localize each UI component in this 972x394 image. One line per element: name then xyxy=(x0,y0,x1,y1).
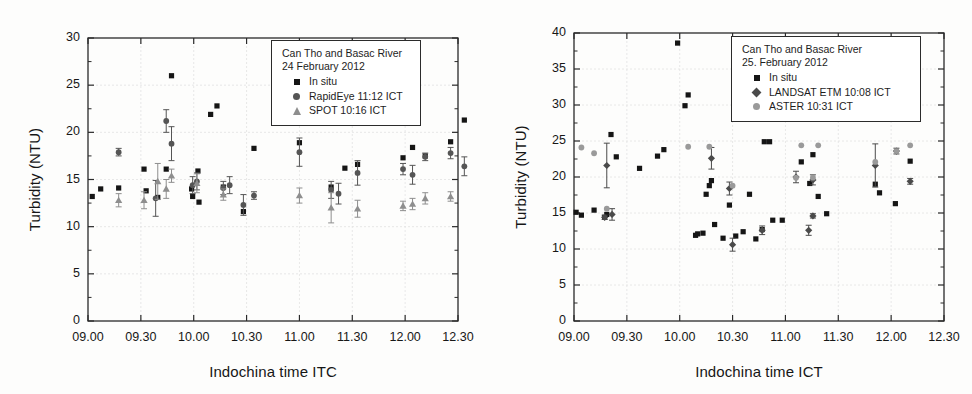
y-tick-label: 40 xyxy=(532,25,566,39)
x-tick-label: 11.30 xyxy=(324,330,380,344)
y-tick-label: 0 xyxy=(532,313,566,327)
x-tick-label: 10.30 xyxy=(219,330,275,344)
y-tick-label: 25 xyxy=(46,77,80,91)
legend-entry-in-situ: In situ xyxy=(282,75,411,89)
x-tick-label: 12.30 xyxy=(430,330,486,344)
legend-entry-rapideye: RapidEye 11:12 ICT xyxy=(282,90,411,104)
legend-label: ASTER 10:31 ICT xyxy=(769,100,853,114)
legend-title-line1: Can Tho and Basac River xyxy=(742,43,911,56)
y-tick-label: 25 xyxy=(532,133,566,147)
y-tick-label: 15 xyxy=(532,205,566,219)
x-axis-title-right: Indochina time ICT xyxy=(574,363,944,380)
legend-label: In situ xyxy=(309,75,337,89)
x-tick-label: 09.00 xyxy=(60,330,116,344)
circle-marker-icon xyxy=(751,103,762,110)
square-marker-icon xyxy=(751,75,762,81)
series-diamond xyxy=(601,143,914,251)
legend-label: In situ xyxy=(769,71,797,85)
x-tick-label: 09.30 xyxy=(113,330,169,344)
legend-entry-landsat: LANDSAT ETM 10:08 ICT xyxy=(742,86,911,100)
legend-entry-in-situ: In situ xyxy=(742,71,911,85)
y-tick-label: 20 xyxy=(46,124,80,138)
legend-entry-aster: ASTER 10:31 ICT xyxy=(742,100,911,114)
chart-panel-right: Turbidity (NTU) Indochina time ICT Can T… xyxy=(486,0,972,394)
square-marker-icon xyxy=(291,79,302,85)
x-tick-label: 10.00 xyxy=(652,330,708,344)
figure-turbidity-timeseries: Turbidity (NTU) Indochina time ITC Can T… xyxy=(0,0,972,394)
x-tick-label: 12.30 xyxy=(916,330,972,344)
legend-label: RapidEye 11:12 ICT xyxy=(309,90,403,104)
x-tick-label: 11.00 xyxy=(271,330,327,344)
chart-panel-left: Turbidity (NTU) Indochina time ITC Can T… xyxy=(0,0,486,394)
x-tick-label: 09.00 xyxy=(546,330,602,344)
y-axis-title-left: Turbidity (NTU) xyxy=(26,38,43,321)
y-tick-label: 0 xyxy=(46,313,80,327)
y-tick-label: 5 xyxy=(46,266,80,280)
triangle-marker-icon xyxy=(291,107,302,115)
circle-marker-icon xyxy=(291,93,302,100)
y-tick-label: 15 xyxy=(46,172,80,186)
y-tick-label: 30 xyxy=(532,97,566,111)
x-tick-label: 10.30 xyxy=(705,330,761,344)
legend-label: LANDSAT ETM 10:08 ICT xyxy=(769,86,891,100)
x-tick-label: 11.30 xyxy=(810,330,866,344)
x-tick-label: 12.00 xyxy=(863,330,919,344)
x-tick-label: 11.00 xyxy=(757,330,813,344)
y-tick-label: 5 xyxy=(532,277,566,291)
legend-label: SPOT 10:16 ICT xyxy=(309,104,386,118)
y-tick-label: 20 xyxy=(532,169,566,183)
y-tick-label: 10 xyxy=(46,219,80,233)
legend-left: Can Tho and Basac River 24 February 2012… xyxy=(271,40,421,126)
y-tick-label: 10 xyxy=(532,241,566,255)
legend-entry-spot: SPOT 10:16 ICT xyxy=(282,104,411,118)
legend-title-line1: Can Tho and Basac River xyxy=(282,47,411,60)
x-tick-label: 10.00 xyxy=(166,330,222,344)
y-tick-label: 30 xyxy=(46,30,80,44)
x-axis-title-left: Indochina time ITC xyxy=(88,363,458,380)
legend-title-line2: 24 February 2012 xyxy=(282,60,411,73)
y-axis-title-right: Turbidity (NTU) xyxy=(512,33,529,321)
x-tick-label: 09.30 xyxy=(599,330,655,344)
x-tick-label: 12.00 xyxy=(377,330,433,344)
legend-title-line2: 25. February 2012 xyxy=(742,56,911,69)
diamond-marker-icon xyxy=(751,89,762,96)
y-tick-label: 35 xyxy=(532,61,566,75)
legend-right: Can Tho and Basac River 25. February 201… xyxy=(731,36,921,122)
